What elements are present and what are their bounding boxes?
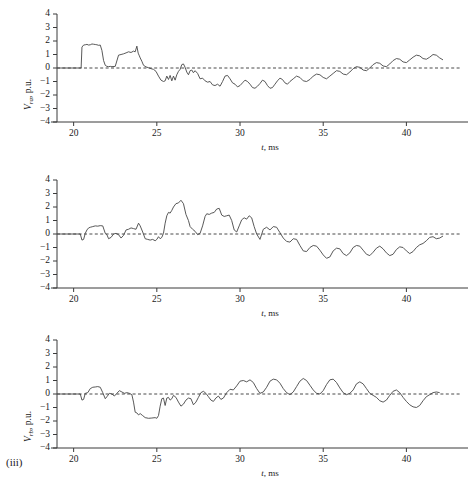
x-axis-title: t, ms (261, 308, 279, 318)
y-tick-label: 4 (45, 174, 50, 184)
y-tick-label: 1 (45, 215, 50, 225)
x-tick-label: 40 (402, 294, 412, 304)
y-tick-label: 0 (45, 228, 50, 238)
x-tick-label: 35 (318, 454, 328, 464)
y-tick-label: −2 (40, 89, 50, 99)
y-tick-label: 3 (45, 22, 50, 32)
y-tick-label: 2 (45, 361, 50, 371)
y-tick-label: 2 (45, 35, 50, 45)
y-tick-label: 3 (45, 188, 50, 198)
x-tick-label: 35 (318, 294, 328, 304)
y-tick-label: 1 (45, 375, 50, 385)
x-tick-label: 40 (402, 454, 412, 464)
y-tick-label: −1 (40, 76, 50, 86)
y-tick-label: 2 (45, 201, 50, 211)
y-tick-label: −1 (40, 402, 50, 412)
data-series-line (57, 44, 443, 88)
x-axis-title: t, ms (261, 468, 279, 478)
plot-svg-panel-2: −4−3−2−1012342025303540t, ms (0, 168, 468, 318)
y-tick-label: 1 (45, 49, 50, 59)
y-tick-label: −3 (40, 429, 50, 439)
y-tick-label: −4 (40, 116, 50, 126)
x-tick-label: 20 (69, 294, 79, 304)
chart-panel-1: Vra, p.u. −4−3−2−1012342025303540t, ms (0, 2, 468, 152)
plot-svg-panel-3: −4−3−2−1012342025303540t, ms (0, 328, 468, 478)
chart-panel-3: Vrc, p.u. −4−3−2−1012342025303540t, ms (0, 328, 468, 478)
y-tick-label: 0 (45, 62, 50, 72)
x-tick-label: 30 (235, 128, 245, 138)
x-tick-label: 30 (235, 454, 245, 464)
data-series-line (57, 200, 443, 258)
y-tick-label: 4 (45, 334, 50, 344)
x-axis-title: t, ms (261, 142, 279, 152)
figure-index-label: (iii) (6, 456, 23, 468)
y-axis-label-symbol: V (23, 104, 33, 110)
x-tick-label: 20 (69, 454, 79, 464)
x-tick-label: 25 (152, 294, 162, 304)
plot-svg-panel-1: −4−3−2−1012342025303540t, ms (0, 2, 468, 152)
y-tick-label: 3 (45, 348, 50, 358)
y-axis-label-panel-1: Vra, p.u. (24, 79, 35, 110)
y-tick-label: 0 (45, 388, 50, 398)
plot-area-panel-2: −4−3−2−1012342025303540t, ms (40, 174, 468, 318)
x-tick-label: 35 (318, 128, 328, 138)
y-axis-label-subscript: ra (27, 98, 35, 104)
figure-container: Vra, p.u. −4−3−2−1012342025303540t, ms V… (0, 0, 468, 488)
x-tick-label: 30 (235, 294, 245, 304)
chart-panel-2: Vrb, p.u. −4−3−2−1012342025303540t, ms (0, 168, 468, 318)
x-tick-label: 20 (69, 128, 79, 138)
x-tick-label: 25 (152, 128, 162, 138)
data-series-line (57, 378, 440, 418)
y-tick-label: −3 (40, 103, 50, 113)
plot-area-panel-1: −4−3−2−1012342025303540t, ms (40, 8, 468, 152)
x-tick-label: 40 (402, 128, 412, 138)
y-tick-label: −2 (40, 255, 50, 265)
y-tick-label: −2 (40, 415, 50, 425)
y-tick-label: −4 (40, 442, 50, 452)
y-tick-label: 4 (45, 8, 50, 18)
y-tick-label: −4 (40, 282, 50, 292)
plot-area-panel-3: −4−3−2−1012342025303540t, ms (40, 334, 468, 478)
y-tick-label: −3 (40, 269, 50, 279)
x-tick-label: 25 (152, 454, 162, 464)
y-axis-label-unit: , p.u. (23, 79, 33, 98)
y-tick-label: −1 (40, 242, 50, 252)
